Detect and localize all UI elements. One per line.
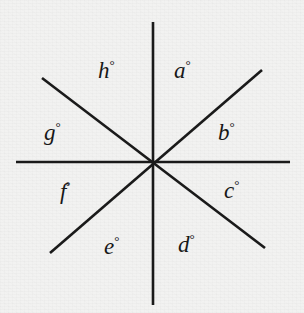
line-group [16,22,290,305]
angle-label-b: b° [218,120,235,144]
angle-letter-c: c [224,178,234,203]
degree-symbol-h: ° [110,57,115,72]
angle-letter-h: h [98,58,110,83]
angle-letter-g: g [44,120,56,145]
degree-symbol-c: ° [234,177,239,192]
degree-symbol-d: ° [190,231,195,246]
degree-symbol-a: ° [186,57,191,72]
degree-symbol-e: ° [114,233,119,248]
angle-letter-a: a [174,58,186,83]
figure-canvas: a° b° c° d° e° f° g° h° [0,0,304,313]
angle-label-h: h° [98,58,115,82]
angle-letter-e: e [104,234,114,259]
angle-label-d: d° [178,232,195,256]
angle-label-g: g° [44,120,61,144]
angle-label-e: e° [104,234,119,258]
degree-symbol-f: ° [65,179,70,193]
angle-label-a: a° [174,58,191,82]
angle-letter-b: b [218,120,230,145]
degree-symbol-g: ° [56,119,61,134]
angle-label-f: f° [60,180,70,203]
angle-letter-d: d [178,232,190,257]
angle-diagram-svg [0,0,304,313]
degree-symbol-b: ° [230,119,235,134]
angle-label-c: c° [224,178,239,202]
